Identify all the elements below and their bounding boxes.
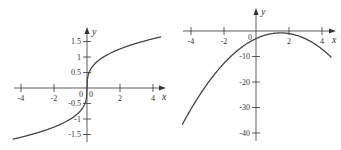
x-axis-arrow-icon (159, 86, 166, 91)
y-tick-label: 1 (77, 53, 81, 62)
y-tick-label: 1.5 (71, 37, 81, 46)
y-tick-label: -40 (239, 129, 250, 138)
y-tick-label: -10 (239, 52, 250, 61)
x-axis-label: x (331, 34, 337, 45)
y-axis-arrow-icon (254, 8, 259, 15)
y-tick-label: 0.5 (71, 68, 81, 77)
y-tick-label: -1.5 (68, 130, 81, 139)
y-tick-label: -20 (239, 78, 250, 87)
x-tick-label: -4 (18, 94, 25, 103)
y-axis-arrow-icon (85, 27, 90, 34)
origin-label: 0 (89, 90, 93, 99)
x-tick-label: 4 (320, 37, 324, 46)
x-tick-label: 4 (151, 94, 155, 103)
y-tick-label: -0.5 (68, 99, 81, 108)
figure: -4 -2 2 4 0 0 1.5 1 0.5 -0.5 -1 -1.5 x y (0, 0, 341, 150)
origin-label: 0 (79, 90, 83, 99)
x-tick-label: 2 (287, 37, 291, 46)
x-tick-label: 2 (118, 94, 122, 103)
x-axis-label: x (161, 91, 167, 102)
y-axis-label: y (260, 6, 266, 17)
parabola-curve (182, 33, 331, 125)
x-axis-arrow-icon (329, 29, 336, 34)
x-tick-label: -2 (221, 37, 228, 46)
y-tick-label: -30 (239, 103, 250, 112)
left-chart: -4 -2 2 4 0 0 1.5 1 0.5 -0.5 -1 -1.5 x y (13, 26, 167, 142)
x-tick-label: -4 (188, 37, 195, 46)
x-tick-label: -2 (51, 94, 58, 103)
right-chart: -4 -2 2 4 0 -10 -20 -30 -40 x y (182, 6, 337, 141)
y-axis-label: y (91, 26, 97, 37)
